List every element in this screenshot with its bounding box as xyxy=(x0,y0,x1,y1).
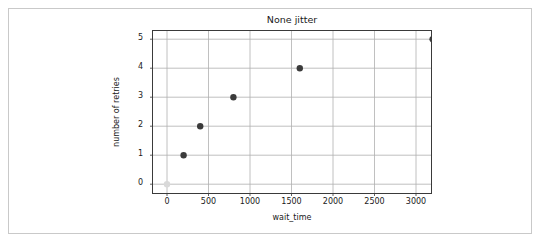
y-tick-label: 1 xyxy=(113,149,143,158)
x-tick-label: 2000 xyxy=(313,197,353,206)
x-tick-label: 3000 xyxy=(396,197,436,206)
data-point xyxy=(297,65,303,71)
plot-svg xyxy=(153,31,431,193)
chart-title: None jitter xyxy=(152,14,432,26)
y-tick-label: 4 xyxy=(113,62,143,71)
y-axis-label: number of retries xyxy=(112,77,121,147)
data-point xyxy=(429,36,431,42)
x-axis-label: wait_time xyxy=(152,213,432,222)
gridlines-vertical xyxy=(167,31,416,193)
data-point xyxy=(180,152,186,158)
figure-panel: None jitter xyxy=(8,8,532,234)
data-points xyxy=(164,36,431,187)
y-tick-label: 0 xyxy=(113,178,143,187)
gridlines-horizontal xyxy=(153,39,431,184)
x-tick-label: 1500 xyxy=(272,197,312,206)
x-tick-label: 0 xyxy=(147,197,187,206)
data-point xyxy=(197,123,203,129)
data-point xyxy=(230,94,236,100)
x-tick-label: 1000 xyxy=(230,197,270,206)
y-tick-label: 5 xyxy=(113,33,143,42)
plot-area xyxy=(152,30,432,194)
x-tick-label: 500 xyxy=(189,197,229,206)
data-point xyxy=(164,181,170,187)
x-tick-label: 2500 xyxy=(355,197,395,206)
y-tickmarks xyxy=(149,30,159,194)
